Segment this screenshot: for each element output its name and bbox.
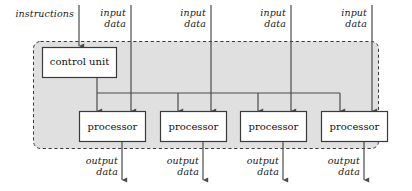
input-data-label-3-line1: input (260, 7, 286, 18)
output-data-label-3-line2: data (257, 166, 279, 177)
output-data-label-1-line2: data (96, 166, 118, 177)
output-data-label-4-line2: data (338, 166, 360, 177)
output-data-label-2-line2: data (177, 166, 199, 177)
input-data-label-1-line2: data (104, 18, 126, 29)
output-data-label-2-line1: output (167, 155, 199, 166)
output-data-label-3: outputdata (227, 155, 279, 177)
output-data-label-4: outputdata (308, 155, 360, 177)
simd-architecture-diagram: instructions inputdata inputdata inputda… (0, 0, 412, 191)
processor-label-3: processor (240, 121, 307, 132)
input-data-label-2-line2: data (184, 18, 206, 29)
input-data-label-1: inputdata (80, 7, 126, 29)
input-data-label-2-line1: input (180, 7, 206, 18)
processor-label-1: processor (79, 121, 146, 132)
output-data-label-1: outputdata (66, 155, 118, 177)
output-data-label-2: outputdata (147, 155, 199, 177)
input-data-label-4-line2: data (345, 18, 367, 29)
input-data-label-4: inputdata (321, 7, 367, 29)
output-data-label-3-line1: output (247, 155, 279, 166)
processor-label-4: processor (321, 121, 388, 132)
input-data-label-2: inputdata (160, 7, 206, 29)
output-data-label-1-line1: output (86, 155, 118, 166)
output-data-label-4-line1: output (328, 155, 360, 166)
input-data-label-3-line2: data (264, 18, 286, 29)
input-data-label-4-line1: input (341, 7, 367, 18)
instructions-label: instructions (0, 8, 74, 19)
input-data-label-1-line1: input (100, 7, 126, 18)
control-unit-label: control unit (42, 56, 117, 67)
processor-label-2: processor (160, 121, 227, 132)
input-data-label-3: inputdata (240, 7, 286, 29)
